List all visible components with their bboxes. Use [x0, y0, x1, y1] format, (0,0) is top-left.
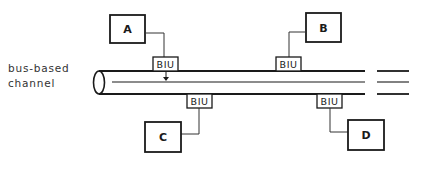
biu-d-label: BIU [321, 96, 339, 107]
station-c-connector [181, 108, 199, 134]
channel-label-line1: bus-based [8, 62, 69, 74]
tube-end-ellipse [94, 71, 105, 94]
station-a: A BIU [110, 15, 178, 71]
station-a-connector [145, 33, 164, 57]
station-c: BIU C [145, 94, 212, 152]
station-b-label: B [319, 22, 327, 35]
station-b-connector [289, 32, 306, 57]
signal-arrow-icon [163, 71, 169, 81]
channel-label: bus-based channel [8, 62, 69, 89]
station-c-label: C [159, 131, 167, 144]
biu-b-label: BIU [280, 59, 298, 70]
station-d-connector [330, 108, 348, 132]
station-d: BIU D [317, 94, 384, 150]
station-b: B BIU [276, 13, 341, 71]
biu-c-label: BIU [191, 96, 209, 107]
bus-network-diagram: bus-based channel A BIU [0, 0, 428, 169]
bus-channel [94, 71, 410, 94]
channel-label-line2: channel [8, 77, 55, 89]
station-d-label: D [361, 129, 370, 142]
biu-a-label: BIU [157, 59, 175, 70]
station-a-label: A [123, 23, 132, 36]
